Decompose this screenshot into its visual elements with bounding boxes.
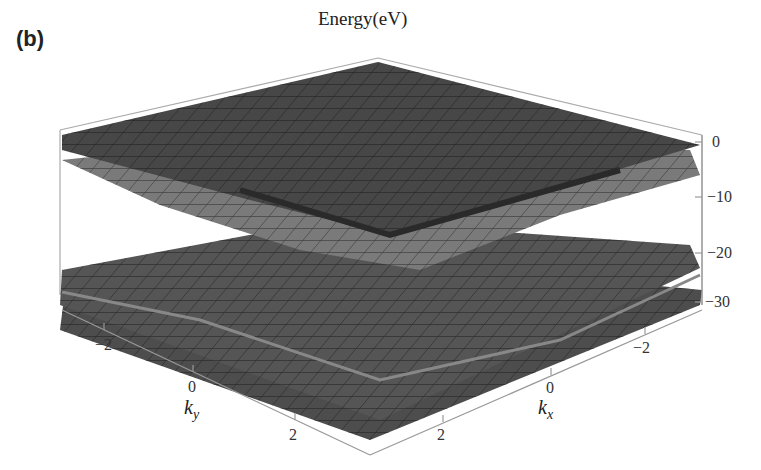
ky-axis-label: ky [184, 396, 200, 422]
kx-tick-0: −2 [633, 339, 650, 356]
z-tick-3: −30 [705, 293, 730, 310]
kx-axis-label: kx [538, 396, 554, 422]
surface-plot: 0 −10 −20 −30 −2 0 2 ky 2 0 −2 kx [0, 0, 761, 470]
z-tick-1: −10 [707, 188, 732, 205]
z-axis [695, 135, 702, 305]
ky-tick-1: 0 [188, 378, 196, 395]
ky-tick-0: −2 [95, 336, 112, 353]
kx-tick-2: 2 [437, 426, 445, 443]
ky-tick-2: 2 [289, 426, 297, 443]
z-tick-0: 0 [712, 133, 720, 150]
z-tick-2: −20 [707, 244, 732, 261]
band-1-surface [62, 62, 700, 235]
kx-tick-1: 0 [546, 379, 554, 396]
